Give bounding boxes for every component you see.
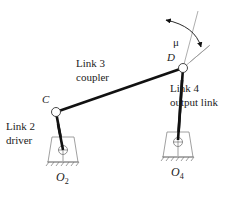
angle-mu-label: μ bbox=[173, 36, 179, 48]
joint-d-label: D bbox=[166, 51, 175, 63]
joint-d bbox=[179, 64, 188, 73]
link2-label-1: Link 2 bbox=[6, 120, 35, 132]
ground-o2-label: O2 bbox=[56, 170, 69, 186]
link3-label-2: coupler bbox=[76, 71, 109, 83]
transmission-angle-arc bbox=[166, 20, 201, 47]
joint-c bbox=[52, 108, 61, 117]
coupler-extension-line-2 bbox=[190, 46, 209, 62]
link4-label-1: Link 4 bbox=[170, 82, 200, 94]
ground-o4-label: O4 bbox=[171, 165, 184, 181]
four-bar-linkage-diagram: Link 3 coupler C D μ Link 4 output link … bbox=[0, 0, 229, 197]
joint-c-label: C bbox=[42, 93, 50, 105]
link2-label-2: driver bbox=[6, 134, 33, 146]
link4-extension-line bbox=[183, 11, 198, 68]
link4-label-2: output link bbox=[170, 96, 218, 108]
link3-label-1: Link 3 bbox=[76, 57, 106, 69]
